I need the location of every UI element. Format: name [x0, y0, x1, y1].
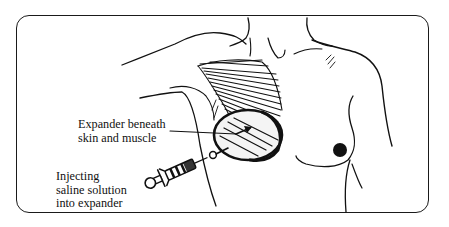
tissue-expander	[214, 110, 282, 161]
label-injection-line3: into expander	[56, 197, 127, 211]
injection-port	[210, 152, 217, 159]
label-expander-line2: skin and muscle	[78, 132, 166, 146]
label-injection-line2: saline solution	[56, 184, 127, 198]
neck-left-outline	[230, 18, 249, 46]
right-breast-outline	[296, 96, 355, 167]
left-axilla-outline	[140, 92, 216, 206]
label-injection-line1: Injecting	[56, 170, 127, 184]
syringe-icon	[142, 150, 211, 194]
label-injection: Injecting saline solution into expander	[56, 170, 127, 211]
label-expander: Expander beneath skin and muscle	[78, 118, 166, 145]
label-expander-line1: Expander beneath	[78, 118, 166, 132]
sternal-notch	[268, 38, 285, 58]
nipple	[333, 143, 347, 157]
